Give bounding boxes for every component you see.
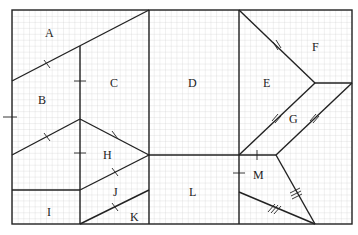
label-b: B	[38, 93, 46, 107]
label-f: F	[312, 40, 319, 54]
label-k: K	[130, 210, 139, 224]
label-h: H	[103, 148, 112, 162]
label-c: C	[110, 76, 118, 90]
label-i: I	[47, 205, 51, 219]
label-d: D	[188, 76, 197, 90]
label-m: M	[253, 168, 264, 182]
label-e: E	[263, 76, 270, 90]
label-g: G	[289, 112, 298, 126]
label-l: L	[189, 185, 196, 199]
label-j: J	[113, 185, 118, 199]
grid-background	[12, 10, 352, 224]
label-a: A	[45, 26, 54, 40]
dissection-diagram: A B C D E F G H I J K L M	[0, 0, 358, 235]
